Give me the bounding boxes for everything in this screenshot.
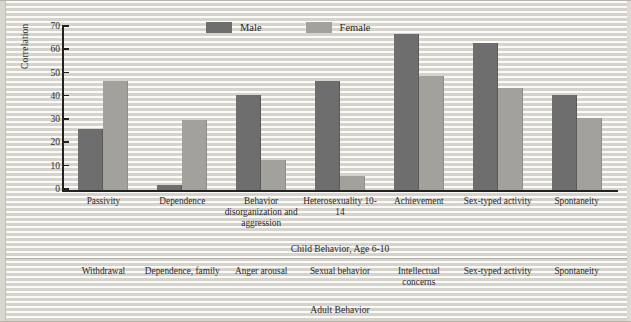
bar-female [498,88,523,190]
figure-panel: Correlation 706050403020100 Male Female … [0,0,631,322]
child-label-3: Heterosexuality 10-14 [301,196,380,229]
y-tick-60: 60 [26,45,60,54]
legend-label-female: Female [340,22,371,33]
child-label-1: Dependence [143,196,222,229]
child-label-2: Behavior disorganization and aggression [222,196,301,229]
legend-swatch-female-icon [306,22,332,33]
adult-label-3: Sexual behavior [301,266,380,288]
child-behavior-caption: Child Behavior, Age 6-10 [64,243,616,254]
child-behavior-labels: PassivityDependenceBehavior disorganizat… [64,196,616,229]
bar-group [537,27,616,190]
y-tick-10: 10 [26,162,60,171]
bar-group [379,27,458,190]
bar-female [577,118,602,190]
adult-label-0: Withdrawal [64,266,143,288]
adult-behavior-caption: Adult Behavior [64,304,616,315]
adult-label-2: Anger arousal [222,266,301,288]
legend-item-female: Female [306,22,371,33]
adult-label-6: Spontaneity [537,266,616,288]
legend-item-male: Male [206,22,262,33]
bar-female [261,160,286,190]
bar-male [394,34,419,190]
bar-female [340,176,365,190]
y-tick-40: 40 [26,92,60,101]
adult-label-1: Dependence, family [143,266,222,288]
y-tick-70: 70 [26,22,60,31]
legend-label-male: Male [240,22,262,33]
bar-female [419,76,444,190]
adult-behavior-labels: WithdrawalDependence, familyAnger arousa… [64,266,616,288]
bar-male [473,43,498,190]
y-tick-20: 20 [26,138,60,147]
plot-area: Correlation 706050403020100 [14,9,618,193]
bar-group [458,27,537,190]
adult-label-5: Sex-typed activity [458,266,537,288]
bar-group [143,27,222,190]
legend-swatch-male-icon [206,22,232,33]
y-tick-50: 50 [26,69,60,78]
bar-male [552,95,577,190]
section-divider [5,258,627,259]
bar-female [182,120,207,190]
adult-label-4: Intellectual concerns [379,266,458,288]
bar-group [301,27,380,190]
bar-group [64,27,143,190]
x-axis-line [62,190,618,192]
y-tick-30: 30 [26,115,60,124]
y-tick-0: 0 [26,185,60,194]
bar-male [236,95,261,190]
bar-female [103,81,128,190]
chart-legend: Male Female [206,22,370,33]
child-label-5: Sex-typed activity [458,196,537,229]
bar-group [222,27,301,190]
bar-male [315,81,340,190]
bar-male [157,185,182,190]
child-label-4: Achievement [379,196,458,229]
bar-male [78,129,103,190]
child-label-0: Passivity [64,196,143,229]
bar-groups [64,27,616,190]
child-label-6: Spontaneity [537,196,616,229]
